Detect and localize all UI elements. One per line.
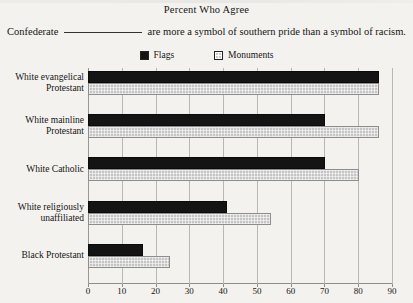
y-axis-label-line: Protestant	[0, 83, 84, 94]
x-axis-tick-label: 20	[151, 286, 160, 296]
bar-group	[88, 154, 392, 197]
legend-item-flags[interactable]: Flags	[140, 50, 175, 60]
bar-flags	[88, 114, 325, 126]
y-axis-label-line: White evangelical	[0, 72, 84, 83]
bar-flags	[88, 71, 379, 83]
x-axis-tick-label: 0	[86, 286, 91, 296]
y-axis-label: White Catholic	[0, 164, 84, 175]
x-axis-tick-label: 80	[354, 286, 363, 296]
x-axis-tick-label: 60	[286, 286, 295, 296]
x-axis-tick-label: 10	[117, 286, 126, 296]
bar-monuments	[88, 213, 271, 225]
gridline-90	[392, 68, 393, 284]
y-axis-label: Black Protestant	[0, 250, 84, 261]
filled-square-icon	[140, 51, 149, 60]
bar-flags	[88, 157, 325, 169]
bar-monuments	[88, 256, 170, 268]
y-axis-labels: White evangelicalProtestantWhite mainlin…	[0, 68, 84, 284]
y-axis-label-line: White religiously	[0, 202, 84, 213]
legend-label: Flags	[154, 50, 175, 60]
y-axis-label-line: unaffiliated	[0, 213, 84, 224]
bar-group	[88, 241, 392, 284]
x-axis-ticks: 0102030405060708090	[88, 284, 392, 300]
x-axis-tick-label: 70	[320, 286, 329, 296]
legend-label: Monuments	[228, 50, 273, 60]
x-axis-tick-label: 50	[252, 286, 261, 296]
bar-group	[88, 68, 392, 111]
x-axis-tick-label: 40	[219, 286, 228, 296]
y-axis-label: White religiouslyunaffiliated	[0, 202, 84, 224]
plot-area	[88, 68, 392, 284]
subtitle-blank	[64, 32, 142, 33]
y-axis-label: White mainlineProtestant	[0, 115, 84, 137]
bar-monuments	[88, 83, 379, 95]
y-axis-label-line: White Catholic	[0, 164, 84, 175]
bar-monuments	[88, 169, 359, 181]
bar-flags	[88, 244, 143, 256]
y-axis-label: White evangelicalProtestant	[0, 72, 84, 94]
bar-flags	[88, 201, 227, 213]
subtitle-after: are more a symbol of southern pride than…	[148, 26, 406, 37]
hatched-square-icon	[214, 51, 223, 60]
y-axis-label-line: White mainline	[0, 115, 84, 126]
bar-group	[88, 198, 392, 241]
chart-page: Percent Who Agree Confederate are more a…	[0, 0, 413, 303]
scan-artifact	[0, 0, 413, 3]
chart-title: Percent Who Agree	[0, 4, 413, 15]
chart-subtitle: Confederate are more a symbol of souther…	[0, 26, 413, 37]
legend-item-monuments[interactable]: Monuments	[214, 50, 273, 60]
subtitle-before: Confederate	[7, 26, 58, 37]
x-axis-tick-label: 30	[185, 286, 194, 296]
y-axis-label-line: Black Protestant	[0, 250, 84, 261]
x-axis-tick-label: 90	[388, 286, 397, 296]
y-axis-label-line: Protestant	[0, 126, 84, 137]
bar-group	[88, 111, 392, 154]
chart-legend: FlagsMonuments	[0, 50, 413, 60]
bar-monuments	[88, 126, 379, 138]
